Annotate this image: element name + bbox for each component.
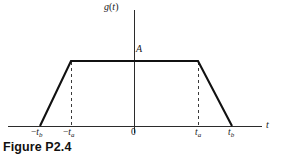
figure-caption: Figure P2.4 <box>3 140 71 154</box>
tick-label-pos-tb: tb <box>228 128 234 139</box>
figure-p2-4: g(t) A t 0 −tb −ta ta tb Figure P2.4 <box>0 0 281 160</box>
x-axis-label: t <box>266 120 269 130</box>
tick-label-neg-tb: −tb <box>31 128 43 139</box>
y-axis-label-paren-close: ) <box>115 1 118 12</box>
tick-label-origin: 0 <box>131 128 136 138</box>
tick-label-neg-ta-subscript: a <box>71 131 75 139</box>
tick-label-pos-ta: ta <box>195 128 201 139</box>
tick-label-pos-ta-subscript: a <box>198 131 202 139</box>
tick-label-pos-tb-subscript: b <box>231 131 235 139</box>
amplitude-label: A <box>136 44 142 54</box>
y-axis-label: g(t) <box>104 2 118 12</box>
signal-waveform-trapezoid <box>40 61 232 126</box>
tick-label-neg-tb-subscript: b <box>39 131 43 139</box>
tick-label-neg-ta: −ta <box>63 128 75 139</box>
